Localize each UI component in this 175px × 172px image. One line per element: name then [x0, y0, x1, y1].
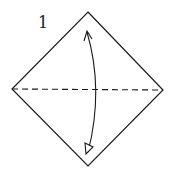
- unfold-arrow-head-bottom: [85, 143, 93, 154]
- valley-fold-line: [12, 89, 163, 90]
- fold-arrow-curve: [87, 32, 96, 152]
- origami-diagram: 1: [0, 0, 175, 172]
- step-number: 1: [38, 13, 48, 32]
